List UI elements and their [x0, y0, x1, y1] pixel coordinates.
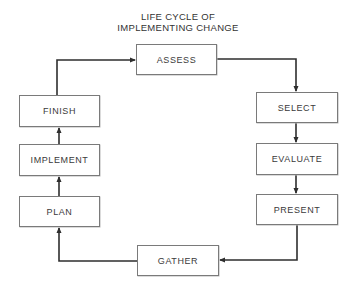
arrow-assess-to-select	[217, 59, 296, 91]
node-label: IMPLEMENT	[31, 155, 89, 165]
node-present: PRESENT	[256, 194, 338, 225]
node-gather: GATHER	[137, 245, 219, 276]
node-label: ASSESS	[157, 55, 197, 65]
arrow-present-to-gather	[220, 225, 297, 260]
node-assess: ASSESS	[136, 44, 217, 75]
node-select: SELECT	[256, 92, 338, 123]
node-label: EVALUATE	[272, 154, 322, 164]
node-label: PRESENT	[274, 205, 321, 215]
node-finish: FINISH	[19, 95, 100, 127]
node-plan: PLAN	[19, 196, 100, 227]
node-label: PLAN	[47, 207, 73, 217]
node-implement: IMPLEMENT	[19, 144, 100, 176]
node-label: FINISH	[43, 106, 76, 116]
node-evaluate: EVALUATE	[256, 143, 338, 175]
arrow-gather-to-plan	[59, 228, 137, 261]
arrow-finish-to-assess	[57, 60, 135, 95]
node-label: SELECT	[278, 103, 317, 113]
node-label: GATHER	[158, 256, 198, 266]
